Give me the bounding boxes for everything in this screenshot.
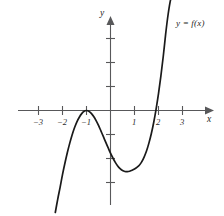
x-tick-label-2: 2 (156, 118, 160, 127)
y-axis-label: y (100, 9, 104, 19)
x-tick-label-3: 3 (180, 118, 184, 127)
x-axis-group (18, 106, 214, 115)
function-graph-figure: −3 −2 −1 1 2 3 x y y = f(x) (0, 0, 224, 216)
x-tick-label--3: −3 (33, 118, 43, 127)
function-curve (55, 0, 174, 212)
x-tick-label--1: −1 (81, 118, 91, 127)
curve-label: y = f(x) (176, 19, 205, 28)
y-axis-arrowhead (107, 16, 115, 25)
graph-canvas (0, 0, 224, 216)
x-axis-label: x (207, 115, 211, 125)
x-tick-label--2: −2 (57, 118, 67, 127)
x-tick-label-1: 1 (132, 118, 136, 127)
